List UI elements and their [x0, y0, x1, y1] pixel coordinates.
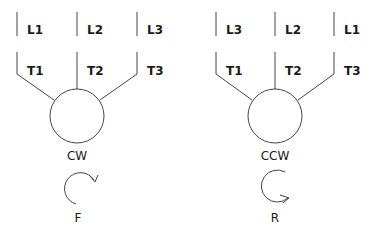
line-label-2: L2: [87, 23, 103, 37]
terminal-label-1: T1: [27, 64, 44, 78]
terminal-label-2: T2: [87, 64, 104, 78]
line-label-3: L1: [344, 23, 360, 37]
line-label-3: L3: [147, 23, 163, 37]
terminal-label-1: T1: [226, 64, 243, 78]
terminal-label-3: T3: [147, 64, 164, 78]
terminal-lead-3: [100, 52, 137, 100]
rotation-label: F: [75, 211, 82, 225]
terminal-label-3: T3: [344, 64, 361, 78]
terminal-lead-3: [298, 52, 334, 100]
motor-circle: [50, 89, 104, 143]
diagram-forward: L1 L2 L3 T1 T2 T3 CW F: [17, 12, 164, 225]
line-label-1: L1: [27, 23, 43, 37]
line-label-2: L2: [285, 23, 301, 37]
clockwise-arrow-icon: [65, 173, 94, 204]
terminal-label-2: T2: [285, 64, 302, 78]
motor-circle: [248, 89, 302, 143]
line-label-1: L3: [226, 23, 242, 37]
motor-rotation-diagram: L1 L2 L3 T1 T2 T3 CW F L3 L2 L1 T1 T2 T3…: [0, 0, 370, 232]
motor-direction-label: CCW: [261, 149, 290, 163]
counterclockwise-arrow-icon: [261, 170, 288, 202]
diagram-reverse: L3 L2 L1 T1 T2 T3 CCW R: [216, 12, 361, 225]
motor-direction-label: CW: [67, 149, 87, 163]
rotation-label: R: [271, 211, 279, 225]
